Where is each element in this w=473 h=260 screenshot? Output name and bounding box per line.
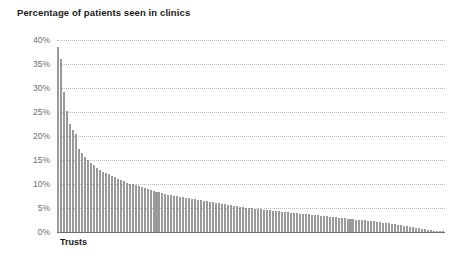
bar bbox=[341, 218, 343, 232]
bar bbox=[412, 227, 414, 232]
y-axis-tick-label: 10% bbox=[17, 179, 50, 189]
bar bbox=[209, 202, 211, 232]
bar bbox=[370, 221, 372, 232]
bar bbox=[275, 211, 277, 232]
bar bbox=[317, 215, 319, 232]
bar bbox=[90, 163, 92, 232]
bar bbox=[155, 192, 157, 232]
bar bbox=[141, 187, 143, 232]
bar bbox=[138, 186, 140, 232]
bar bbox=[99, 170, 101, 232]
bar bbox=[361, 220, 363, 232]
bar bbox=[221, 204, 223, 232]
bar bbox=[293, 213, 295, 232]
bar bbox=[102, 172, 104, 232]
bar bbox=[173, 196, 175, 232]
bar bbox=[200, 200, 202, 232]
bar bbox=[338, 218, 340, 232]
bar bbox=[430, 230, 432, 232]
bar bbox=[427, 230, 429, 232]
bar bbox=[239, 207, 241, 232]
bar bbox=[129, 184, 131, 232]
bar bbox=[69, 124, 71, 232]
bar bbox=[403, 226, 405, 232]
bar bbox=[105, 173, 107, 232]
y-axis-tick-label: 20% bbox=[17, 131, 50, 141]
bar bbox=[57, 47, 59, 232]
bar bbox=[308, 214, 310, 232]
bar bbox=[153, 191, 155, 232]
bar bbox=[409, 227, 411, 232]
bar bbox=[323, 216, 325, 232]
bar bbox=[224, 204, 226, 232]
x-axis-baseline bbox=[57, 232, 445, 233]
bar bbox=[66, 111, 68, 232]
bar bbox=[254, 209, 256, 232]
bar bbox=[176, 196, 178, 232]
bar bbox=[281, 212, 283, 232]
bar bbox=[263, 210, 265, 232]
bar bbox=[367, 221, 369, 232]
x-axis-title: Trusts bbox=[60, 237, 87, 247]
bar bbox=[329, 217, 331, 232]
bar bbox=[394, 224, 396, 232]
bar bbox=[126, 183, 128, 232]
bar bbox=[81, 153, 83, 232]
bar bbox=[382, 223, 384, 232]
bar bbox=[242, 207, 244, 232]
bar bbox=[257, 209, 259, 232]
bar bbox=[302, 214, 304, 232]
bar bbox=[335, 217, 337, 232]
y-axis-tick-label: 30% bbox=[17, 83, 50, 93]
bar bbox=[248, 208, 250, 232]
bar bbox=[442, 231, 444, 232]
bar bbox=[305, 214, 307, 232]
bar bbox=[320, 216, 322, 232]
bar bbox=[376, 222, 378, 232]
bar bbox=[349, 219, 351, 232]
bar bbox=[344, 218, 346, 232]
bar bbox=[147, 189, 149, 232]
y-axis-tick-label: 15% bbox=[17, 155, 50, 165]
bar bbox=[418, 228, 420, 232]
bar bbox=[144, 188, 146, 232]
bar bbox=[352, 219, 354, 232]
y-axis-tick-label: 5% bbox=[17, 203, 50, 213]
bar bbox=[266, 210, 268, 232]
bar bbox=[120, 180, 122, 232]
bar-series bbox=[57, 40, 445, 232]
bar bbox=[373, 221, 375, 232]
y-axis-tick-label: 25% bbox=[17, 107, 50, 117]
bar bbox=[314, 215, 316, 232]
bar bbox=[236, 206, 238, 232]
bar bbox=[287, 212, 289, 232]
bar bbox=[326, 216, 328, 232]
y-axis-tick-label: 0% bbox=[17, 227, 50, 237]
bar bbox=[63, 92, 65, 232]
bar bbox=[87, 160, 89, 232]
bar bbox=[96, 168, 98, 232]
bar bbox=[385, 223, 387, 232]
bar bbox=[206, 201, 208, 232]
bar bbox=[290, 213, 292, 232]
bar bbox=[123, 181, 125, 232]
bar bbox=[296, 213, 298, 232]
bar bbox=[203, 201, 205, 232]
bar bbox=[114, 177, 116, 232]
bar bbox=[406, 226, 408, 232]
bar bbox=[358, 220, 360, 232]
bar bbox=[424, 229, 426, 232]
bar bbox=[84, 157, 86, 232]
bar bbox=[170, 195, 172, 232]
bar bbox=[167, 195, 169, 232]
bar bbox=[179, 197, 181, 232]
bar bbox=[388, 223, 390, 232]
bar bbox=[391, 224, 393, 232]
bar bbox=[191, 199, 193, 232]
bar bbox=[194, 199, 196, 232]
bar bbox=[245, 208, 247, 232]
y-axis-tick-label: 35% bbox=[17, 59, 50, 69]
bar bbox=[260, 209, 262, 232]
bar bbox=[436, 231, 438, 232]
bar bbox=[117, 179, 119, 232]
